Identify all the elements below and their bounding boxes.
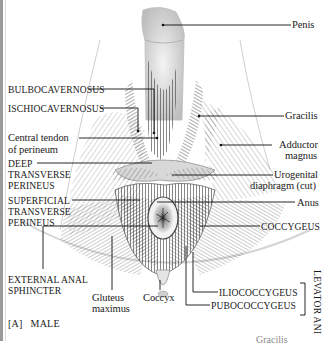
label-deep-transverse-line3: PERINEUS — [8, 180, 55, 191]
label-superficial-transverse-line1: SUPERFICIAL — [8, 195, 70, 206]
label-pubococcygeus: PUBOCOCCYGEUS — [211, 300, 296, 311]
label-urogenital-diaphragm-line2: diaphragm (cut) — [250, 180, 316, 191]
panel-title: MALE — [31, 318, 60, 329]
label-adductor-magnus-line2: magnus — [285, 150, 317, 161]
label-external-anal-sphincter-line2: SPHINCTER — [8, 285, 61, 296]
label-bulbocavernosus: BULBOCAVERNOSUS — [8, 84, 105, 95]
label-gracilis: Gracilis — [285, 110, 317, 121]
label-central-tendon-line1: Central tendon — [8, 132, 69, 143]
label-superficial-transverse-line3: PERINEUS — [8, 217, 55, 228]
label-coccyx: Coccyx — [143, 292, 174, 303]
label-gluteus-maximus-line1: Gluteus — [92, 292, 124, 303]
label-adductor-magnus-line1: Adductor — [279, 139, 318, 150]
label-deep-transverse-line2: TRANSVERSE — [8, 169, 71, 180]
label-central-tendon-line2: of perineum — [8, 144, 58, 155]
label-urogenital-diaphragm-line1: Urogenital — [274, 169, 318, 180]
label-external-anal-sphincter-line1: EXTERNAL ANAL — [8, 274, 88, 285]
partial-label-gracilis: Gracilis — [256, 334, 288, 345]
label-gluteus-maximus-line2: maximus — [92, 303, 130, 314]
label-anus: Anus — [297, 197, 319, 208]
label-deep-transverse-line1: DEEP — [8, 158, 32, 169]
label-penis: Penis — [292, 19, 314, 30]
panel-label: [A] — [8, 318, 22, 329]
label-levator-ani: LEVATOR ANI — [312, 270, 323, 335]
label-coccygeus: COCCYGEUS — [261, 221, 320, 232]
label-superficial-transverse-line2: TRANSVERSE — [8, 206, 71, 217]
figure-caption: [A] MALE — [8, 318, 60, 329]
label-ischiocavernosus: ISCHIOCAVERNOSUS — [8, 103, 104, 114]
label-iliococcygeus: ILIOCOCCYGEUS — [219, 287, 298, 298]
